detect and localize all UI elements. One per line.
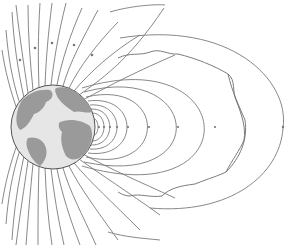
outer-field-arc	[108, 5, 284, 240]
magnetosphere-diagram	[0, 0, 294, 245]
earth-globe	[11, 85, 95, 169]
closed-field-loops	[82, 80, 216, 175]
